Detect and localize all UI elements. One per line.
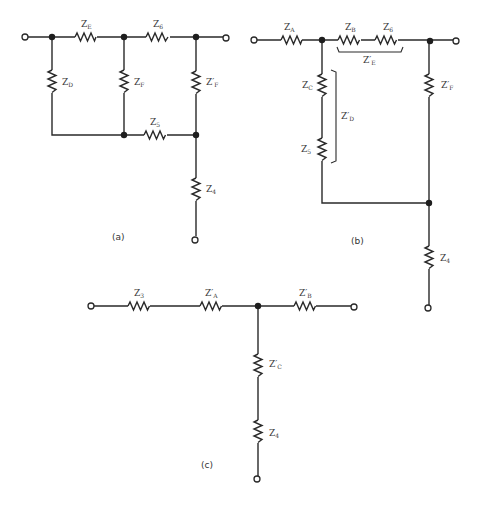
resistor-zpf: [192, 71, 200, 94]
brace-zpd: [331, 70, 336, 163]
resistor-zpf: [425, 74, 433, 97]
resistor-z4: [254, 420, 262, 443]
brace-zpe: [337, 47, 403, 52]
terminal: [425, 305, 431, 311]
resistor-zpa: [200, 302, 222, 310]
terminal: [254, 476, 260, 482]
panel-b: ZA ZB Z6 Z′E ZC Z′D Z5 Z′F Z4 (b): [251, 22, 459, 311]
caption-c: (c): [201, 460, 213, 470]
resistor-za: [281, 36, 302, 44]
label-zc: ZC: [302, 80, 313, 91]
label-zpf: Z′F: [441, 80, 453, 91]
terminal: [88, 303, 94, 309]
resistor-zpb: [294, 302, 316, 310]
junction-node: [427, 38, 433, 44]
junction-node: [193, 34, 199, 40]
terminal: [223, 35, 229, 41]
label-z6: Z6: [383, 22, 393, 33]
label-zpe: Z′E: [363, 55, 376, 66]
label-ze: ZE: [81, 19, 92, 30]
caption-b: (b): [351, 236, 364, 246]
junction-node: [49, 34, 55, 40]
terminal: [351, 304, 357, 310]
label-z4: Z4: [269, 428, 279, 439]
label-zpa: Z′A: [205, 288, 218, 299]
label-zf: ZF: [134, 77, 144, 88]
label-za: ZA: [284, 22, 295, 33]
label-z3: Z3: [134, 288, 144, 299]
resistor-zpc: [254, 354, 262, 377]
resistor-z4: [425, 246, 433, 269]
label-z5: Z5: [150, 117, 160, 128]
junction-node: [255, 303, 261, 309]
panel-a: ZE Z6 ZD ZF Z′F Z5 Z4 (a): [22, 19, 229, 243]
junction-node: [121, 132, 127, 138]
resistor-zf: [120, 70, 128, 93]
label-zd: ZD: [62, 77, 73, 88]
label-zpf: Z′F: [206, 77, 218, 88]
resistor-z3: [128, 302, 150, 310]
terminal: [192, 237, 198, 243]
label-zpc: Z′C: [269, 359, 282, 370]
resistor-z4: [192, 178, 200, 201]
resistor-z6: [146, 33, 168, 41]
panel-c: Z3 Z′A Z′B Z′C Z4 (c): [88, 288, 357, 482]
label-zpb: Z′B: [299, 288, 312, 299]
label-z4: Z4: [206, 184, 216, 195]
terminal: [251, 37, 257, 43]
junction-node: [121, 34, 127, 40]
circuit-figure: ZE Z6 ZD ZF Z′F Z5 Z4 (a) ZA: [0, 0, 482, 505]
terminal: [22, 34, 28, 40]
resistor-zb: [338, 36, 360, 44]
label-z4: Z4: [440, 253, 450, 264]
label-zb: ZB: [345, 22, 356, 33]
junction-node: [319, 37, 325, 43]
resistor-zc: [318, 74, 326, 97]
resistor-z5: [144, 131, 166, 139]
resistor-ze: [75, 33, 96, 41]
label-zpd: Z′D: [341, 111, 354, 122]
label-z5: Z5: [301, 144, 311, 155]
caption-a: (a): [112, 232, 125, 242]
junction-node: [193, 132, 199, 138]
junction-node: [426, 200, 432, 206]
resistor-zd: [48, 70, 56, 93]
terminal: [453, 38, 459, 44]
resistor-z6: [375, 36, 397, 44]
label-z6: Z6: [153, 19, 163, 30]
resistor-z5: [318, 138, 326, 161]
